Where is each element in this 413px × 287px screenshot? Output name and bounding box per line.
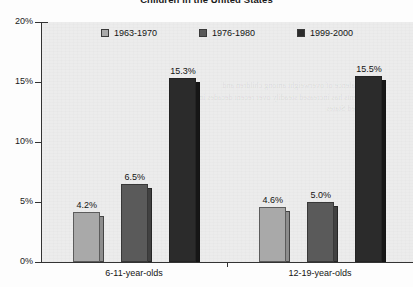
bar[interactable]: 5.0%: [307, 202, 334, 262]
bar-value-label: 5.0%: [311, 190, 332, 200]
y-axis-line: [41, 22, 42, 263]
y-axis-tick-label: 20%: [0, 16, 33, 26]
bar-front-face: [121, 184, 148, 262]
legend-item-label: 1999-2000: [310, 28, 353, 38]
y-axis-tick: [35, 142, 41, 143]
legend-swatch-icon: [297, 29, 305, 37]
bar-front-face: [259, 207, 286, 262]
bar-side-face: [334, 206, 338, 262]
plot-area: the prevalence of overweight among child…: [41, 22, 413, 262]
bar-value-label: 15.5%: [356, 64, 382, 74]
y-axis-tick: [35, 82, 41, 83]
bar-side-face: [100, 216, 104, 262]
bar-side-face: [196, 82, 200, 262]
bar-chart: Children in the United States the preval…: [0, 0, 413, 287]
bar[interactable]: 15.5%: [355, 76, 382, 262]
legend-item[interactable]: 1963-1970: [101, 28, 157, 38]
x-axis-group-tick: [227, 262, 228, 267]
chart-title: Children in the United States: [0, 0, 413, 5]
bar-value-label: 6.5%: [125, 172, 146, 182]
chart-legend: 1963-19701976-19801999-2000: [41, 28, 413, 38]
legend-item[interactable]: 1999-2000: [297, 28, 353, 38]
bar-front-face: [355, 76, 382, 262]
y-axis-tick-label: 0%: [0, 256, 33, 266]
legend-item-label: 1976-1980: [212, 28, 255, 38]
x-axis-category-label: 6-11-year-olds: [74, 268, 194, 278]
y-axis-top-cap: [41, 22, 48, 23]
bar-side-face: [382, 80, 386, 262]
bar-front-face: [307, 202, 334, 262]
bar-side-face: [148, 188, 152, 262]
bar[interactable]: 15.3%: [169, 78, 196, 262]
y-axis-tick-label: 10%: [0, 136, 33, 146]
y-axis-tick-label: 5%: [0, 196, 33, 206]
legend-item-label: 1963-1970: [114, 28, 157, 38]
y-axis-tick: [35, 202, 41, 203]
legend-swatch-icon: [101, 29, 109, 37]
bar[interactable]: 4.6%: [259, 207, 286, 262]
y-axis-tick-label: 15%: [0, 76, 33, 86]
bar-value-label: 4.6%: [263, 195, 284, 205]
bar-value-label: 4.2%: [77, 200, 98, 210]
y-axis-tick: [35, 262, 41, 263]
y-axis-tick: [35, 22, 41, 23]
bar-side-face: [286, 211, 290, 262]
bar[interactable]: 6.5%: [121, 184, 148, 262]
bar[interactable]: 4.2%: [73, 212, 100, 262]
legend-item[interactable]: 1976-1980: [199, 28, 255, 38]
legend-swatch-icon: [199, 29, 207, 37]
bar-front-face: [169, 78, 196, 262]
bleed-through-artifact: the prevalence of overweight among child…: [191, 80, 381, 115]
x-axis-category-label: 12-19-year-olds: [260, 268, 380, 278]
bar-value-label: 15.3%: [170, 66, 196, 76]
bar-front-face: [73, 212, 100, 262]
